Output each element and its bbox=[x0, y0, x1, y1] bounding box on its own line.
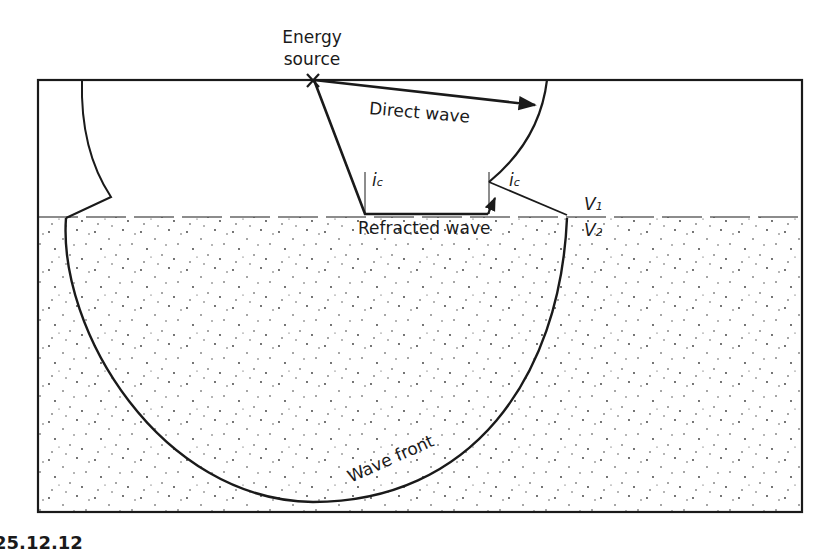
figure-caption: 25.12.12 bbox=[0, 534, 83, 552]
v2-label: V2 bbox=[584, 222, 603, 239]
critical-angle-left-label: ic bbox=[372, 172, 383, 189]
direct-wave-ray bbox=[314, 80, 535, 105]
direct-wave-front-right bbox=[489, 80, 547, 182]
v1-label: V1 bbox=[584, 196, 603, 213]
head-wave-right bbox=[489, 182, 567, 215]
lower-layer-v2 bbox=[38, 217, 802, 512]
energy-source-label: Energy source bbox=[282, 26, 342, 70]
refracted-wave-label: Refracted wave bbox=[358, 220, 490, 237]
left-head-wave-front bbox=[66, 80, 111, 218]
critical-angle-right-label: ic bbox=[509, 172, 520, 189]
